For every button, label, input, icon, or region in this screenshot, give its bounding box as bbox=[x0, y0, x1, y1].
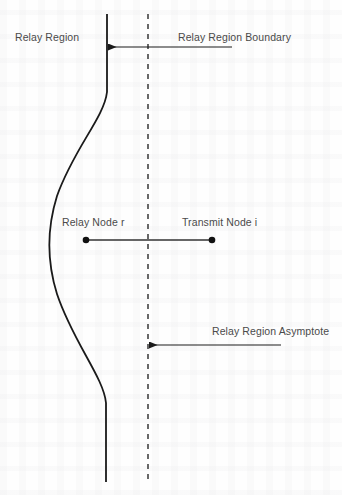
relay-region-boundary-curve bbox=[50, 14, 108, 482]
diagram-vector-layer bbox=[0, 0, 342, 495]
transmit-node-label: Transmit Node i bbox=[182, 216, 257, 228]
relay-region-asymptote-label: Relay Region Asymptote bbox=[212, 325, 329, 337]
relay-node-point bbox=[83, 237, 90, 244]
relay-region-label: Relay Region bbox=[15, 31, 79, 43]
relay-region-figure: Relay Region Relay Region Boundary Relay… bbox=[0, 0, 342, 495]
relay-node-label: Relay Node r bbox=[62, 216, 124, 228]
transmit-node-point bbox=[209, 237, 216, 244]
relay-region-boundary-label: Relay Region Boundary bbox=[178, 31, 291, 43]
